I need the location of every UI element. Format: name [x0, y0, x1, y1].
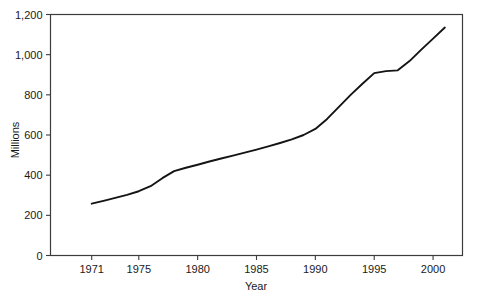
x-tick-label-1985: 1985 [244, 263, 268, 275]
x-tick-label-1980: 1980 [185, 263, 209, 275]
y-axis-title: Millions [9, 121, 21, 158]
y-tick-label-200: 200 [24, 209, 42, 221]
y-tick-label-800: 800 [24, 89, 42, 101]
chart-canvas: 02004006008001,0001,200 1971197519801985… [0, 0, 479, 296]
x-axis-tick-labels: 1971197519801985199019952000 [79, 263, 445, 275]
x-axis-title: Year [245, 280, 268, 292]
y-tick-label-0: 0 [36, 250, 42, 262]
x-axis-ticks [92, 256, 433, 261]
x-tick-label-1975: 1975 [127, 263, 151, 275]
y-tick-label-400: 400 [24, 169, 42, 181]
line-chart: 02004006008001,0001,200 1971197519801985… [0, 0, 479, 296]
y-tick-label-1,200: 1,200 [15, 9, 43, 21]
y-tick-label-1,000: 1,000 [15, 49, 43, 61]
data-series-line [92, 28, 445, 204]
x-tick-label-2000: 2000 [421, 263, 445, 275]
x-tick-label-1971: 1971 [79, 263, 103, 275]
plot-frame [51, 15, 463, 256]
y-tick-label-600: 600 [24, 129, 42, 141]
x-tick-label-1990: 1990 [303, 263, 327, 275]
x-tick-label-1995: 1995 [362, 263, 386, 275]
y-axis-ticks [46, 15, 51, 256]
